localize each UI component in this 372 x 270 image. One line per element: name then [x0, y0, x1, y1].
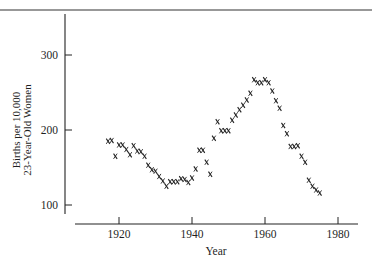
data-point-x-marker: [125, 147, 129, 152]
data-point-x-marker: [230, 118, 234, 123]
data-point-x-marker: [256, 80, 260, 85]
data-point-x-marker: [267, 80, 271, 85]
data-point-x-marker: [179, 176, 183, 181]
x-tick-label: 1940: [181, 228, 204, 240]
data-point-x-marker: [271, 88, 275, 93]
data-point-x-marker: [106, 139, 110, 144]
data-point-x-marker: [252, 77, 256, 82]
y-tick-label: 100: [41, 199, 59, 211]
data-point-x-marker: [238, 107, 242, 112]
data-point-x-marker: [296, 143, 300, 148]
x-axis-label: Year: [205, 245, 226, 257]
y-tick-label: 300: [41, 49, 59, 61]
data-point-x-marker: [318, 190, 322, 195]
data-point-x-marker: [154, 169, 158, 174]
data-points: [106, 77, 321, 195]
data-point-x-marker: [278, 106, 282, 111]
data-point-x-marker: [139, 149, 143, 154]
x-tick-label: 1920: [108, 228, 131, 240]
data-point-x-marker: [198, 148, 202, 153]
y-tick-label: 200: [41, 124, 59, 136]
data-point-x-marker: [249, 91, 253, 96]
data-point-x-marker: [292, 144, 296, 149]
data-point-x-marker: [281, 123, 285, 128]
data-point-x-marker: [132, 143, 136, 148]
data-point-x-marker: [205, 160, 209, 165]
data-point-x-marker: [289, 144, 293, 149]
data-point-x-marker: [190, 175, 194, 180]
y-ticks: 100200300: [41, 49, 72, 211]
data-point-x-marker: [219, 128, 223, 133]
data-point-x-marker: [161, 178, 165, 183]
data-point-x-marker: [223, 128, 227, 133]
data-point-x-marker: [216, 119, 220, 124]
data-point-x-marker: [187, 180, 191, 185]
data-point-x-marker: [168, 179, 172, 184]
data-point-x-marker: [234, 112, 238, 117]
data-point-x-marker: [117, 142, 121, 147]
data-point-x-marker: [311, 184, 315, 189]
data-point-x-marker: [274, 98, 278, 103]
data-point-x-marker: [300, 154, 304, 159]
y-axis-label-line2: 23-Year-Old Women: [21, 84, 33, 176]
data-point-x-marker: [157, 174, 161, 179]
data-point-x-marker: [135, 148, 139, 153]
data-point-x-marker: [194, 166, 198, 171]
data-point-x-marker: [227, 128, 231, 133]
data-point-x-marker: [183, 177, 187, 182]
data-point-x-marker: [260, 80, 264, 85]
data-point-x-marker: [314, 187, 318, 192]
x-tick-label: 1960: [254, 228, 277, 240]
x-tick-label: 1980: [327, 228, 350, 240]
scatter-chart: 100200300 1920194019601980 Year Births p…: [0, 0, 372, 270]
data-point-x-marker: [241, 103, 245, 108]
data-point-x-marker: [150, 167, 154, 172]
data-point-x-marker: [110, 138, 114, 143]
data-point-x-marker: [121, 142, 125, 147]
data-point-x-marker: [245, 97, 249, 102]
data-point-x-marker: [172, 179, 176, 184]
data-point-x-marker: [114, 154, 118, 159]
data-point-x-marker: [128, 152, 132, 157]
data-point-x-marker: [303, 160, 307, 165]
data-point-x-marker: [208, 172, 212, 177]
data-point-x-marker: [201, 148, 205, 153]
data-point-x-marker: [176, 179, 180, 184]
data-point-x-marker: [143, 154, 147, 159]
data-point-x-marker: [307, 178, 311, 183]
x-ticks: 1920194019601980: [108, 217, 350, 240]
data-point-x-marker: [165, 184, 169, 189]
data-point-x-marker: [146, 163, 150, 168]
data-point-x-marker: [263, 77, 267, 82]
data-point-x-marker: [285, 131, 289, 136]
data-point-x-marker: [212, 136, 216, 141]
